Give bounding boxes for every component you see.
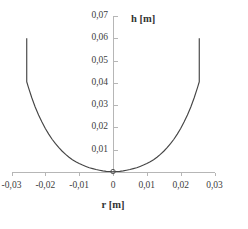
x-tick-label-2: -0,01 [69, 181, 89, 191]
x-axis-title: r [m] [102, 200, 125, 211]
chart-container: 0,010,020,030,040,050,060,07 -0,03-0,02-… [0, 0, 248, 229]
axes-group [12, 16, 215, 173]
x-tick-label-6: 0,03 [206, 181, 223, 191]
y-tick-label-2: 0,03 [78, 100, 108, 110]
x-tick-label-5: 0,02 [172, 181, 189, 191]
y-tick-label-5: 0,06 [78, 34, 108, 44]
y-axis-title: h [m] [131, 14, 155, 25]
x-tick-label-3: 0 [111, 181, 116, 191]
y-tick-label-0: 0,01 [78, 145, 108, 155]
y-tick-label-6: 0,07 [78, 11, 108, 21]
y-tick-label-3: 0,04 [78, 78, 108, 88]
x-tick-label-1: -0,02 [35, 181, 55, 191]
y-tick-label-4: 0,05 [78, 56, 108, 66]
y-tick-label-1: 0,02 [78, 123, 108, 133]
plot-area [0, 0, 248, 229]
x-tick-label-4: 0,01 [138, 181, 155, 191]
x-tick-label-0: -0,03 [2, 181, 22, 191]
